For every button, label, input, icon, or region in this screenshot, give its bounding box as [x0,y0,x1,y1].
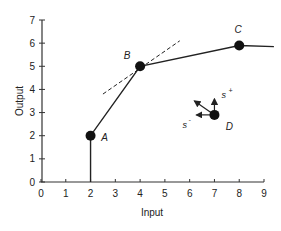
x-tick-label: 7 [212,188,218,199]
y-tick-label: 5 [29,61,35,72]
y-tick-label: 1 [29,153,35,164]
x-tick-label: 2 [88,188,94,199]
frontier-line [91,45,274,182]
point-a [86,131,96,141]
s-minus-label: s [182,120,187,130]
y-tick-label: 7 [29,15,35,26]
y-tick-label: 0 [29,177,35,188]
x-tick-label: 8 [236,188,242,199]
y-tick-label: 3 [29,107,35,118]
point-label-b: B [124,50,131,61]
x-tick-label: 0 [38,188,44,199]
s-plus-label: s [221,90,226,100]
axes: 012345678901234567 [29,15,267,200]
point-d [209,110,219,120]
s-plus-sup: + [228,87,232,94]
chart: 012345678901234567 ABCDs+s- Input Output [0,0,281,231]
x-tick-label: 9 [261,188,267,199]
plot-area: ABCDs+s- [86,24,274,182]
x-tick-label: 3 [113,188,119,199]
x-axis-label: Input [141,207,163,218]
x-tick-label: 1 [63,188,69,199]
x-tick-label: 5 [162,188,168,199]
y-tick-label: 4 [29,84,35,95]
y-axis-label: Output [14,86,25,116]
x-tick-label: 6 [187,188,193,199]
point-label-d: D [226,121,233,132]
point-label-c: C [235,24,243,35]
y-tick-label: 6 [29,38,35,49]
y-tick-label: 2 [29,130,35,141]
point-c [234,40,244,50]
point-label-a: A [100,132,108,143]
s-minus-sup: - [188,116,191,123]
x-tick-label: 4 [137,188,143,199]
point-b [135,61,145,71]
